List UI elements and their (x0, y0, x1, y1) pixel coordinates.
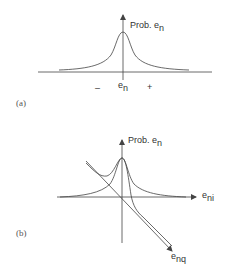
panel-b-ni-label: eni (202, 190, 214, 203)
panel-b-ni-curve (60, 158, 186, 197)
panel-b-y-label: Prob. en (128, 135, 162, 148)
panel-b: Prob. en eni enq (b) (16, 135, 214, 264)
panel-a-y-label: Prob. en (130, 20, 164, 33)
panel-a-tag: (a) (16, 98, 26, 108)
panel-a-minus-label: – (95, 83, 100, 93)
panel-b-nq-label: enq (171, 251, 186, 264)
diagram-canvas: Prob. en – en + (a) Prob. en eni enq (b) (0, 0, 232, 266)
panel-a-distribution-curve (59, 32, 189, 70)
panel-a: Prob. en – en + (a) (16, 15, 212, 108)
panel-b-nq-axis (86, 161, 172, 251)
panel-a-center-label: en (118, 80, 128, 93)
panel-a-plus-label: + (147, 82, 152, 92)
panel-b-joint-curve (86, 158, 172, 246)
panel-b-tag: (b) (16, 228, 27, 238)
